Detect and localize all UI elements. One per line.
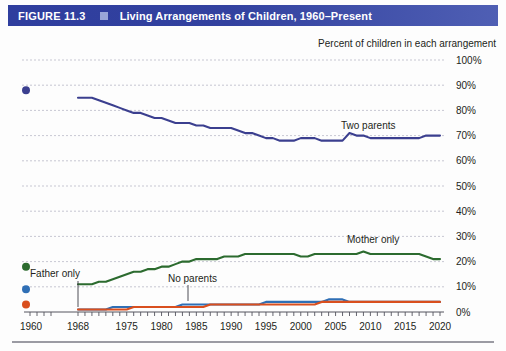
y-axis-tick-label: 100% (456, 55, 482, 66)
y-axis-tick-label: 70% (456, 130, 476, 141)
data-point-1960-two-parents (22, 86, 30, 94)
x-axis-tick-label: 1995 (255, 321, 278, 332)
x-axis-tick-label: 1990 (220, 321, 243, 332)
data-point-1960-mother-only (22, 263, 30, 271)
annotation-no-parents: No parents (168, 273, 217, 284)
isolated-points-group (22, 86, 30, 308)
y-axis-tick-label: 90% (456, 80, 476, 91)
x-axis-tick-label: 2015 (394, 321, 417, 332)
y-axis-labels-group: 0%10%20%30%40%50%60%70%80%90%100% (456, 55, 482, 318)
x-axis-tick-label: 1960 (20, 321, 43, 332)
y-axis-tick-label: 80% (456, 105, 476, 116)
annotations-group: Two parentsMother onlyFather onlyNo pare… (30, 120, 399, 307)
x-axis-tick-label: 2020 (429, 321, 452, 332)
annotation-father-only: Father only (30, 268, 80, 279)
x-axis-tick-label: 1975 (116, 321, 139, 332)
y-axis-tick-label: 20% (456, 256, 476, 267)
data-point-1960-father-only (22, 285, 30, 293)
y-axis-tick-label: 0% (456, 307, 471, 318)
y-axis-tick-label: 40% (456, 206, 476, 217)
figure-root: FIGURE 11.3 Living Arrangements of Child… (0, 0, 506, 351)
y-axis-tick-label: 10% (456, 281, 476, 292)
chart-plot-area: 0%10%20%30%40%50%60%70%80%90%100% 196019… (0, 0, 506, 351)
series-line-no-parents (78, 302, 440, 310)
annotation-mother-only: Mother only (347, 234, 399, 245)
x-axis-tick-label: 2010 (359, 321, 382, 332)
y-axis-tick-label: 60% (456, 155, 476, 166)
x-axis-group: 1960196819751980198519901995200020052010… (20, 312, 452, 332)
gridlines-group (22, 60, 444, 287)
x-axis-tick-label: 1968 (67, 321, 90, 332)
chart-svg: 0%10%20%30%40%50%60%70%80%90%100% 196019… (0, 0, 506, 351)
series-line-mother-only (78, 252, 440, 285)
y-axis-tick-label: 50% (456, 181, 476, 192)
x-axis-tick-label: 2005 (324, 321, 347, 332)
x-axis-tick-label: 2000 (290, 321, 313, 332)
data-point-1960-no-parents (22, 300, 30, 308)
x-axis-tick-label: 1980 (150, 321, 173, 332)
annotation-two-parents: Two parents (341, 120, 395, 131)
bottom-rule (12, 341, 494, 343)
x-axis-tick-label: 1985 (185, 321, 208, 332)
y-axis-tick-label: 30% (456, 231, 476, 242)
